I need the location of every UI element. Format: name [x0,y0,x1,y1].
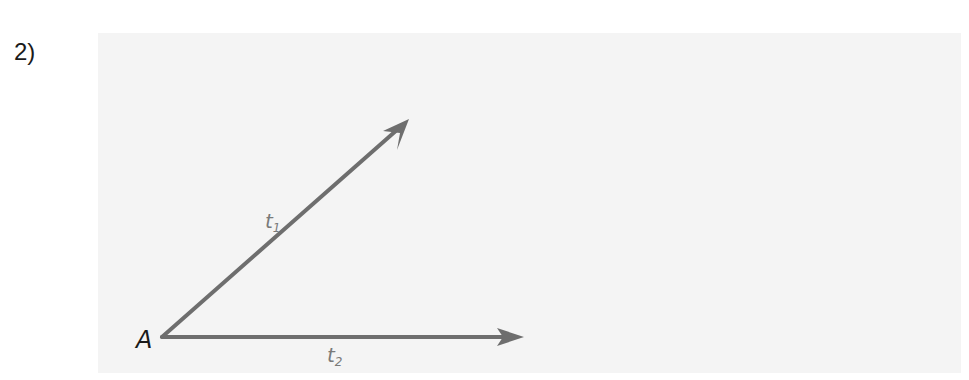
ray-t2 [162,328,524,346]
ray-t1 [162,119,409,337]
ray-label-t1: t1 [265,209,280,235]
arrowhead-icon [383,119,409,150]
ray-label-t2: t2 [327,343,342,369]
vertex-label-a: A [134,326,152,354]
angle-diagram: A t1 t2 [0,0,969,380]
